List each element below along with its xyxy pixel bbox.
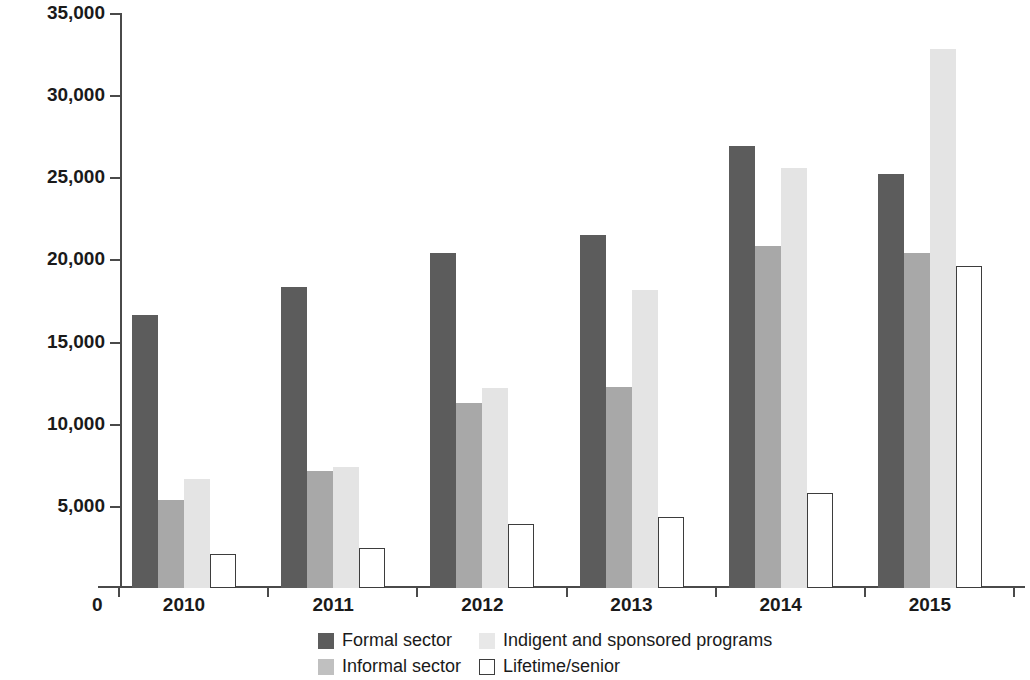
x-axis-tick-mark — [864, 588, 866, 597]
bar — [456, 403, 482, 588]
x-axis-tick-mark — [1013, 588, 1015, 597]
legend-item[interactable]: Lifetime/senior — [479, 656, 772, 677]
x-axis-label: 2013 — [592, 594, 672, 616]
bar — [132, 315, 158, 588]
bar-group — [580, 13, 684, 588]
bar-group — [430, 13, 534, 588]
bar-group — [281, 13, 385, 588]
bar-group — [878, 13, 982, 588]
bar — [158, 500, 184, 588]
x-axis-label: 2011 — [293, 594, 373, 616]
y-axis-tick-mark — [110, 259, 120, 261]
bar — [210, 554, 236, 589]
x-axis-label: 2012 — [442, 594, 522, 616]
y-axis-line — [120, 13, 122, 588]
y-axis-tick-mark — [110, 13, 120, 15]
y-axis-tick-mark — [110, 95, 120, 97]
bar — [606, 387, 632, 588]
y-axis-tick-mark — [110, 506, 120, 508]
y-axis-tick-label: 30,000 — [10, 85, 105, 104]
y-axis-tick-mark — [110, 177, 120, 179]
legend-label: Lifetime/senior — [503, 656, 620, 677]
bar — [729, 146, 755, 588]
x-axis-tick-mark — [566, 588, 568, 597]
legend-swatch-indigent — [479, 633, 495, 649]
legend-item[interactable]: Informal sector — [318, 656, 461, 677]
y-axis-tick-label: 35,000 — [10, 3, 105, 22]
bar — [482, 388, 508, 588]
chart-legend: Formal sectorIndigent and sponsored prog… — [318, 630, 772, 677]
bar — [956, 266, 982, 588]
legend-swatch-informal — [318, 659, 334, 675]
bar — [755, 246, 781, 588]
legend-swatch-lifetime — [479, 659, 495, 675]
bar — [359, 548, 385, 588]
y-axis-tick-label: 10,000 — [10, 414, 105, 433]
x-axis-tick-mark — [715, 588, 717, 597]
bar — [658, 517, 684, 588]
x-axis-tick-mark — [267, 588, 269, 597]
x-axis-label: 2014 — [741, 594, 821, 616]
bar — [430, 253, 456, 588]
legend-swatch-formal — [318, 633, 334, 649]
y-axis-tick-mark — [110, 424, 120, 426]
x-axis-tick-mark — [118, 588, 120, 597]
y-axis-tick-label: 20,000 — [10, 249, 105, 268]
x-axis-label: 2010 — [144, 594, 224, 616]
bar — [807, 493, 833, 588]
legend-label: Formal sector — [342, 630, 452, 651]
y-axis-tick-label: 5,000 — [10, 496, 105, 515]
bar — [904, 253, 930, 588]
bar — [333, 467, 359, 588]
bar — [781, 168, 807, 588]
bar — [632, 290, 658, 588]
bar — [508, 524, 534, 588]
bar — [878, 174, 904, 588]
bar — [930, 49, 956, 588]
y-axis-zero-label: 0 — [92, 594, 103, 616]
legend-label: Indigent and sponsored programs — [503, 630, 772, 651]
legend-item[interactable]: Indigent and sponsored programs — [479, 630, 772, 651]
bar — [281, 287, 307, 588]
legend-label: Informal sector — [342, 656, 461, 677]
bar — [580, 235, 606, 588]
bar-group — [729, 13, 833, 588]
bar-chart: ₱, millions 0 5,00010,00015,00020,00025,… — [0, 0, 1030, 680]
x-axis-label: 2015 — [890, 594, 970, 616]
y-axis-tick-label: 15,000 — [10, 332, 105, 351]
bar — [184, 479, 210, 588]
y-axis-tick-mark — [110, 342, 120, 344]
legend-item[interactable]: Formal sector — [318, 630, 461, 651]
plot-area: 5,00010,00015,00020,00025,00030,00035,00… — [120, 13, 1025, 588]
x-axis-tick-mark — [416, 588, 418, 597]
y-axis-tick-label: 25,000 — [10, 167, 105, 186]
bar — [307, 471, 333, 588]
bar-group — [132, 13, 236, 588]
